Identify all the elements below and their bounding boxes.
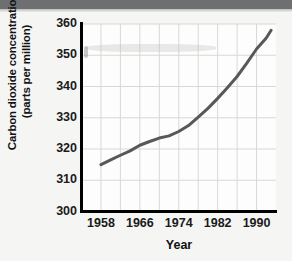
x-tick-label: 1966	[120, 216, 160, 230]
x-tick-label: 1990	[237, 216, 277, 230]
scan-artifact-mark	[84, 46, 88, 58]
x-axis-label: Year	[81, 238, 277, 252]
x-tick-label: 1982	[198, 216, 238, 230]
x-tick-label: 1958	[81, 216, 121, 230]
x-tick-label: 1974	[159, 216, 199, 230]
scan-artifact-streak	[86, 44, 216, 52]
chart-figure: Carbon dioxide concentration (parts per …	[0, 0, 292, 261]
